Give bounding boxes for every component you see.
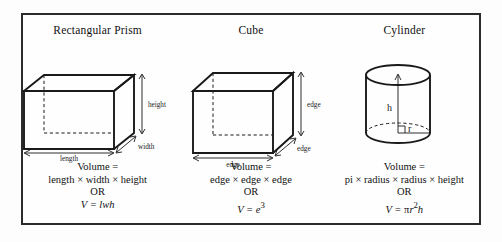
cylinder-label-height: h [387, 102, 392, 113]
prism-formula-line2: length × width × height [21, 174, 174, 187]
cube-drawing: edge edge edge [181, 41, 321, 159]
cylinder-formula-h: h [418, 203, 423, 214]
column-cylinder: Cylinder h [328, 13, 481, 225]
cube-formula-line1: Volume = [174, 161, 327, 174]
prism-formula-line1: Volume = [21, 161, 174, 174]
cylinder-right-angle-mark [398, 126, 405, 133]
cube-label-edge-depth: edge [297, 145, 311, 153]
cylinder-formula-line2: pi × radius × radius × height [328, 174, 481, 187]
formula-cylinder: Volume = pi × radius × radius × height O… [328, 161, 481, 216]
shape-title-rectangular-prism: Rectangular Prism [53, 25, 142, 37]
formula-rectangular-prism: Volume = length × width × height OR V = … [21, 161, 174, 211]
cube-front-face [193, 91, 273, 153]
figure-rectangular-prism: height width length [21, 41, 174, 159]
cube-top-face [193, 73, 293, 91]
cube-formula-or: OR [174, 186, 327, 199]
figure-cube: edge edge edge [174, 41, 327, 159]
cube-formula-exponent: 3 [260, 200, 264, 210]
cube-formula-line2: edge × edge × edge [174, 174, 327, 187]
shape-title-cube: Cube [238, 25, 263, 37]
column-cube: Cube edge [174, 13, 327, 225]
cube-label-edge-vertical: edge [307, 101, 321, 109]
prism-formula-or: OR [21, 186, 174, 199]
cylinder-formula-or: OR [328, 186, 481, 199]
cylinder-label-radius: r [408, 123, 412, 134]
prism-front-face [24, 91, 114, 149]
prism-formula-symbolic: V = lwh [21, 199, 174, 212]
rectangular-prism-drawing: height width length [22, 41, 174, 159]
cylinder-bottom-front-arc [366, 133, 430, 143]
cube-formula-v: V = [237, 203, 256, 214]
volume-formulas-poster: Rectangular Prism [0, 0, 502, 242]
cube-formula-symbolic: V = e3 [174, 199, 327, 216]
prism-formula-v: V = [81, 199, 100, 210]
shape-title-cylinder: Cylinder [383, 25, 425, 37]
prism-label-width: width [138, 143, 155, 151]
figure-cylinder: h r [328, 41, 481, 159]
column-rectangular-prism: Rectangular Prism [21, 13, 174, 225]
cylinder-formula-v: V = [386, 203, 405, 214]
cube-right-face [273, 73, 293, 153]
shape-columns: Rectangular Prism [21, 13, 481, 225]
cylinder-formula-line1: Volume = [328, 161, 481, 174]
formula-cube: Volume = edge × edge × edge OR V = e3 [174, 161, 327, 216]
prism-formula-lwh: lwh [99, 199, 114, 210]
prism-label-height: height [148, 101, 166, 109]
prism-right-face [114, 75, 134, 149]
cylinder-formula-symbolic: V = πr2h [328, 199, 481, 216]
cylinder-drawing: h r [344, 41, 464, 159]
